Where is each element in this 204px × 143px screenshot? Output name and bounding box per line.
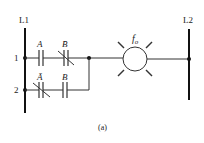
ladder-diagram: L1 L2 1 2 A B̄ Ā B fo <box>0 0 204 143</box>
contact-a-label: A <box>36 39 43 49</box>
contact-b-bar-label: B̄ <box>62 39 68 49</box>
left-rail-label: L1 <box>19 15 29 25</box>
lamp-icon <box>123 47 147 71</box>
output-label: fo <box>132 33 139 46</box>
right-rail-label: L2 <box>183 15 193 25</box>
caption: (a) <box>98 123 107 132</box>
diagram-canvas: L1 L2 1 2 A B̄ Ā B fo <box>0 0 204 143</box>
contact-b-label: B <box>62 72 68 82</box>
contact-a-bar-label: Ā <box>36 72 43 82</box>
rung-2-number: 2 <box>14 85 19 95</box>
rung-1: A B̄ <box>25 39 123 66</box>
rung-1-number: 1 <box>14 53 19 63</box>
rung-2: Ā B <box>25 58 89 98</box>
lamp-output: fo <box>118 33 191 76</box>
